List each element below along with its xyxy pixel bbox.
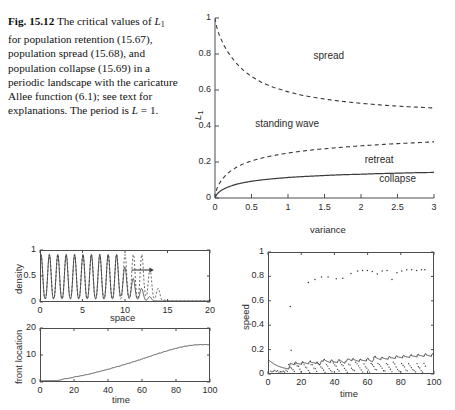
caption-line2b: for population [8,33,72,45]
region-label-standing-wave: standing wave [255,118,319,129]
front-location-chart: 02040608010001020 time front location [4,322,222,408]
caption-line8: function (6.1); see text for [35,90,152,102]
main-chart-critical-values: 00.511.522.5300.20.40.60.81 spreadstandi… [186,12,452,252]
y-tick-label: 1 [189,12,211,22]
caption-line2a: values of [111,15,152,27]
x-tick-label: 0 [206,202,224,212]
caption-line9: explanations. The period is [8,104,129,116]
x-tick-label: 2 [352,202,370,212]
figure-page: Fig. 15.12 The critical values of L1 for… [0,0,455,410]
caption-line5: population collapse (15.69) in [8,62,142,74]
main-y-axis-label: L1 [192,110,205,120]
caption-line4: spread (15.68), and [59,47,145,59]
y-tick-label: 0.6 [189,84,211,94]
speed-y-axis-label: speed [240,304,251,330]
x-tick-label: 3 [425,202,443,212]
x-tick-label: 1.5 [316,202,334,212]
region-label-spread: spread [314,50,345,61]
caption-period-value: = 1. [141,104,159,116]
speed-axes-ticks [230,246,452,408]
figure-caption: Fig. 15.12 The critical values of L1 for… [8,14,180,117]
y-tick-label: 0.8 [189,48,211,58]
caption-symbol-L-sub: 1 [161,20,165,29]
speed-chart: 02040608010000.20.40.60.81 time speed [230,246,452,408]
y-tick-label: 0 [189,192,211,202]
main-chart-axes [186,12,452,252]
density-y-axis-label: density [13,264,24,294]
caption-line1: The critical [57,15,108,27]
caption-period-symbol: L [132,104,138,116]
figure-number: Fig. 15.12 [8,15,54,27]
front-location-x-axis-label: time [112,394,130,405]
region-label-retreat: retreat [365,154,394,165]
y-tick-label: 0.2 [189,156,211,166]
front-location-y-axis-label: front location [13,330,24,384]
x-tick-label: 1 [279,202,297,212]
x-tick-label: 0.5 [243,202,261,212]
x-tick-label: 2.5 [389,202,407,212]
density-chart: 0510152000.51 space density [4,246,222,324]
main-y-axis-subscript: 1 [196,110,205,114]
main-x-axis-label: variance [310,224,346,235]
speed-x-axis-label: time [340,388,358,399]
region-label-collapse: collapse [379,173,416,184]
main-y-axis-symbol: L [192,115,203,120]
y-tick-label: 0.4 [189,120,211,130]
